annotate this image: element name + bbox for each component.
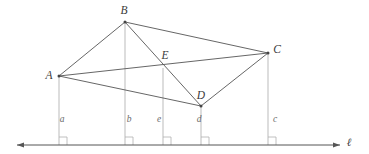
foot-segment-labels: abedc <box>60 114 278 124</box>
vertex-label-C: C <box>273 43 281 55</box>
edge-AB <box>59 22 125 76</box>
edge-DC <box>201 53 268 106</box>
vertex-label-E: E <box>160 49 168 61</box>
vertex-dot-C <box>267 52 270 55</box>
vertex-dot-B <box>124 21 127 24</box>
edge-AD <box>59 76 201 106</box>
baseline-l <box>17 142 340 147</box>
vertex-dot-A <box>58 75 61 78</box>
foot-label-d: d <box>197 114 202 124</box>
foot-label-b: b <box>127 114 132 124</box>
right-angle-a <box>59 137 67 145</box>
figure-canvas: ABCDE abedc ℓ <box>0 0 369 154</box>
figure-edges <box>59 22 268 106</box>
foot-label-a: a <box>60 114 65 124</box>
right-angle-d <box>201 137 209 145</box>
edge-BC <box>125 22 268 53</box>
line-l-label: ℓ <box>347 136 352 148</box>
right-angle-e <box>163 137 171 145</box>
right-angle-markers <box>59 137 276 145</box>
baseline-arrow-right <box>333 142 340 147</box>
right-angle-c <box>268 137 276 145</box>
baseline-arrow-left <box>17 142 24 147</box>
baseline-label: ℓ <box>347 136 352 148</box>
geometry-figure: ABCDE abedc ℓ <box>0 0 369 154</box>
right-angle-b <box>125 137 133 145</box>
vertex-label-D: D <box>196 89 206 101</box>
perpendicular-drop-lines <box>59 22 268 145</box>
vertex-label-A: A <box>44 69 53 81</box>
vertex-label-B: B <box>120 4 127 16</box>
foot-label-c: c <box>273 114 278 124</box>
vertex-dot-D <box>200 105 203 108</box>
foot-label-e: e <box>157 114 161 124</box>
